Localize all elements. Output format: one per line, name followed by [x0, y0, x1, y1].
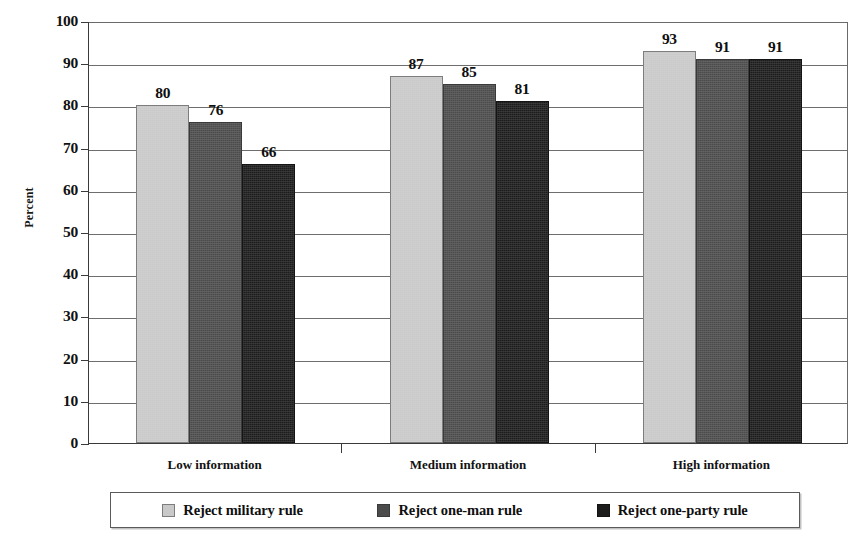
y-tick-label: 10 [18, 392, 78, 410]
legend-item[interactable]: Reject military rule [162, 502, 303, 519]
y-tick-label: 70 [18, 139, 78, 157]
bar [643, 51, 696, 443]
bar [443, 84, 496, 443]
bar-texture [137, 106, 188, 442]
bar [749, 59, 802, 443]
y-tick-label: 20 [18, 350, 78, 368]
y-tick-label: 90 [18, 54, 78, 72]
legend-swatch-icon [377, 504, 390, 517]
legend-label: Reject one-man rule [398, 502, 522, 519]
legend-swatch-icon [597, 504, 610, 517]
bar-chart: Percent 807666878581939191 0102030405060… [0, 0, 865, 546]
bar-value-label: 91 [749, 38, 802, 56]
bar-value-label: 91 [696, 38, 749, 56]
bar-texture [391, 77, 442, 442]
y-tick-mark [81, 317, 89, 318]
y-tick-mark [81, 22, 89, 23]
bar [136, 105, 189, 443]
bar-texture [750, 60, 801, 442]
bar-texture [697, 60, 748, 442]
bar-texture [243, 165, 294, 442]
x-axis-label: Medium information [341, 457, 594, 473]
y-tick-mark [81, 402, 89, 403]
y-tick-label: 30 [18, 307, 78, 325]
y-tick-label: 100 [18, 12, 78, 30]
legend-item[interactable]: Reject one-party rule [597, 502, 748, 519]
bar [696, 59, 749, 443]
bar-value-label: 87 [390, 55, 443, 73]
bar-value-label: 85 [443, 63, 496, 81]
x-axis-separator-tick [595, 444, 596, 453]
bar-value-label: 93 [643, 30, 696, 48]
y-tick-mark [81, 360, 89, 361]
y-tick-mark [81, 191, 89, 192]
y-tick-mark [81, 64, 89, 65]
legend-swatch-icon [162, 504, 175, 517]
y-tick-mark [81, 233, 89, 234]
y-tick-mark [81, 106, 89, 107]
y-tick-label: 50 [18, 223, 78, 241]
bar-texture [644, 52, 695, 442]
bar-value-label: 66 [242, 143, 295, 161]
x-axis-label: High information [595, 457, 848, 473]
legend: Reject military ruleReject one-man ruleR… [110, 492, 800, 528]
bar [189, 122, 242, 443]
bar [390, 76, 443, 443]
y-tick-label: 80 [18, 96, 78, 114]
bar-value-label: 81 [496, 80, 549, 98]
bar-texture [444, 85, 495, 442]
y-tick-label: 0 [18, 434, 78, 452]
y-axis-title: Percent [22, 153, 37, 263]
bar-value-label: 80 [136, 84, 189, 102]
bar-texture [190, 123, 241, 442]
bar-texture [497, 102, 548, 442]
x-axis-label: Low information [88, 457, 341, 473]
bar-value-label: 76 [189, 101, 242, 119]
bar [242, 164, 295, 443]
legend-label: Reject military rule [183, 502, 303, 519]
plot-area: 807666878581939191 [88, 22, 848, 444]
x-axis-separator-tick [341, 444, 342, 453]
legend-label: Reject one-party rule [618, 502, 748, 519]
y-tick-label: 40 [18, 265, 78, 283]
bar [496, 101, 549, 443]
y-tick-mark [81, 444, 89, 445]
legend-item[interactable]: Reject one-man rule [377, 502, 522, 519]
y-tick-mark [81, 149, 89, 150]
y-tick-label: 60 [18, 181, 78, 199]
y-tick-mark [81, 275, 89, 276]
